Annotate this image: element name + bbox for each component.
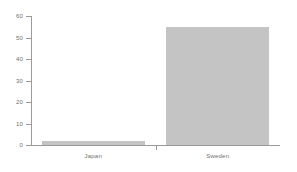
x-axis-category-label: Sweden (206, 153, 229, 160)
y-axis-tick (26, 145, 31, 146)
y-axis-tick-label: 30 (0, 78, 23, 84)
y-axis-tick-label: 10 (0, 121, 23, 127)
y-axis-tick-label: 60 (0, 13, 23, 19)
y-axis-tick-label: 20 (0, 99, 23, 105)
y-axis-tick-label: 40 (0, 56, 23, 62)
bars-layer (31, 16, 280, 145)
bar-japan (42, 141, 145, 145)
x-axis-category-label: Japan (85, 153, 102, 160)
bar-sweden (166, 27, 269, 145)
bar-chart: 0102030405060 JapanSweden (0, 0, 297, 172)
x-axis-tick (156, 146, 157, 150)
y-axis-tick-label: 50 (0, 35, 23, 41)
y-axis-tick-label: 0 (0, 142, 23, 148)
